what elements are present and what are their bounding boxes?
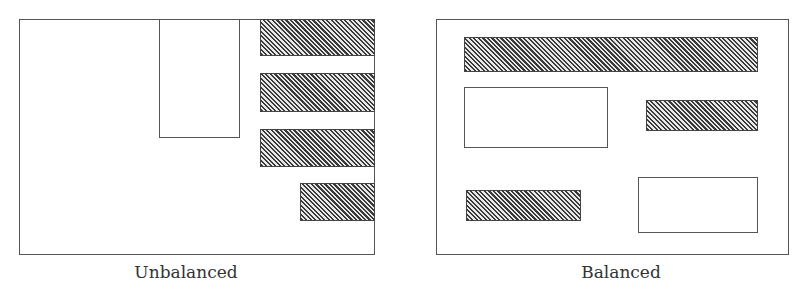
balanced-hatched-bar-bottom-left [466,190,581,221]
unbalanced-hatched-bar-1 [260,19,375,56]
balanced-white-rect-left [464,87,608,148]
unbalanced-hatched-bar-4 [300,183,375,221]
unbalanced-hatched-bar-3 [260,129,375,167]
unbalanced-caption: Unbalanced [86,262,286,282]
unbalanced-hatched-bar-2 [260,73,375,112]
balanced-hatched-bar-right [646,100,758,131]
unbalanced-white-rect [159,19,240,138]
balanced-hatched-top-bar [464,37,758,72]
balanced-caption: Balanced [521,262,721,282]
balanced-white-rect-bottom-right [638,177,758,233]
